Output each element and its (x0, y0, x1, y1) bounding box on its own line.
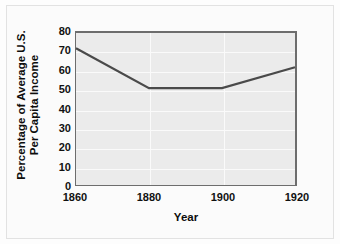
x-axis-title: Year (75, 211, 297, 223)
y-axis-title: Percentage of Average U.S.Per Capita Inc… (15, 25, 41, 185)
chart-figure: 01020304050607080 1860188019001920 Year … (0, 0, 340, 244)
y-tick-label: 50 (47, 84, 71, 95)
y-tick-label: 40 (47, 104, 71, 115)
x-tick-label: 1880 (127, 191, 171, 204)
y-tick-label: 80 (47, 26, 71, 37)
y-tick-label: 70 (47, 45, 71, 56)
x-tick-label: 1860 (53, 191, 97, 204)
x-axis-tick-labels: 1860188019001920 (75, 191, 297, 207)
line-series (76, 33, 295, 185)
y-axis-title-line: Per Capita Income (28, 25, 41, 185)
plot-area (75, 31, 297, 186)
y-tick-label: 20 (47, 142, 71, 153)
y-tick-label: 10 (47, 162, 71, 173)
x-tick-label: 1920 (275, 191, 319, 204)
x-tick-label: 1900 (201, 191, 245, 204)
series-polyline (76, 48, 295, 88)
y-axis-tick-labels: 01020304050607080 (45, 31, 71, 186)
y-tick-label: 30 (47, 123, 71, 134)
y-axis-title-line: Percentage of Average U.S. (15, 25, 28, 185)
y-tick-label: 60 (47, 65, 71, 76)
